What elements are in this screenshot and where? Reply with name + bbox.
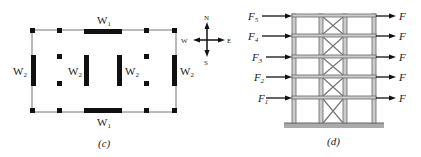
force-label-f2: F2 bbox=[253, 71, 265, 85]
label-w2-right: W2 bbox=[180, 65, 194, 79]
svg-text:F: F bbox=[398, 71, 406, 83]
columns bbox=[30, 28, 177, 113]
force-label-f4: F4 bbox=[247, 30, 259, 44]
caption-c: (c) bbox=[98, 137, 111, 150]
plan-outline bbox=[32, 30, 176, 112]
wall-w1-top bbox=[84, 29, 122, 34]
right-force-arrows bbox=[376, 14, 396, 101]
wall-w2-right bbox=[172, 55, 177, 86]
svg-text:F: F bbox=[398, 10, 406, 22]
compass-icon bbox=[193, 22, 225, 57]
wall-w2-left bbox=[31, 55, 36, 86]
compass-east: E bbox=[227, 37, 231, 45]
frame-columns bbox=[292, 14, 376, 123]
braced-frame bbox=[284, 14, 384, 128]
ground-hatch bbox=[284, 123, 384, 128]
diagram-canvas: W1 W1 W2 W2 W2 W2 (c) N S E W bbox=[0, 0, 421, 157]
svg-text:F: F bbox=[398, 92, 406, 104]
label-w2-left: W2 bbox=[13, 65, 27, 79]
compass-south: S bbox=[204, 59, 208, 67]
left-force-labels: F5 F4 F3 F2 F1 bbox=[247, 10, 268, 106]
force-label-f1: F1 bbox=[257, 92, 268, 106]
wall-w1-bottom bbox=[84, 108, 122, 113]
force-label-f3: F3 bbox=[251, 51, 263, 65]
left-force-arrows bbox=[262, 14, 292, 101]
svg-text:F: F bbox=[398, 30, 406, 42]
label-w1-bottom: W1 bbox=[97, 116, 111, 130]
floor-plan: W1 W1 W2 W2 W2 W2 (c) bbox=[13, 14, 194, 150]
label-w2-inner-left: W2 bbox=[68, 65, 82, 79]
force-label-f5: F5 bbox=[247, 10, 259, 24]
wall-w2-inner-right bbox=[117, 55, 122, 86]
compass-north: N bbox=[204, 14, 209, 22]
label-w2-inner-right: W2 bbox=[125, 65, 139, 79]
caption-d: (d) bbox=[327, 135, 340, 148]
x-bracing bbox=[323, 17, 343, 123]
right-force-labels: F F F F F bbox=[398, 10, 406, 104]
wall-w2-inner-left bbox=[84, 55, 89, 86]
svg-text:F: F bbox=[398, 51, 406, 63]
label-w1-top: W1 bbox=[97, 14, 111, 28]
compass-west: W bbox=[181, 37, 188, 45]
